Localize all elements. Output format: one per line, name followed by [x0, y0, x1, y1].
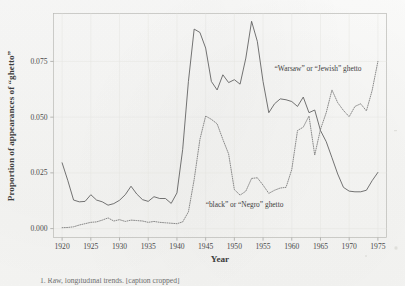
x-tick-label: 1920: [55, 242, 70, 251]
annotation-black-negro: “black” or “Negro” ghetto: [206, 200, 284, 209]
scan-smudge: [394, 246, 397, 249]
ghetto-proportion-line-chart: 1920192519301935194019451950195519601965…: [0, 0, 405, 286]
y-tick-label: 0.025: [30, 168, 47, 177]
x-tick-label: 1950: [227, 242, 242, 251]
scan-smudge: [394, 130, 397, 131]
series-warsaw-jewish-line: [62, 21, 378, 205]
y-axis-ticks: 0.0000.0250.0500.075: [30, 57, 53, 233]
x-tick-label: 1935: [141, 242, 156, 251]
cropped-caption: 1. Raw, longitudinal trends. [caption cr…: [40, 276, 180, 285]
y-tick-label: 0.050: [30, 113, 47, 122]
data-series-group: [62, 21, 378, 227]
x-tick-label: 1955: [255, 242, 270, 251]
x-tick-label: 1960: [284, 242, 299, 251]
y-axis-label: Proportion of appearances of “ghetto”: [6, 50, 16, 201]
x-tick-label: 1940: [169, 242, 184, 251]
caption-text: 1. Raw, longitudinal trends. [caption cr…: [40, 276, 180, 285]
y-tick-label: 0.075: [30, 57, 47, 66]
annotation-warsaw-jewish: “Warsaw” or “Jewish” ghetto: [275, 64, 362, 73]
y-tick-label: 0.000: [30, 224, 47, 233]
x-tick-label: 1970: [342, 242, 357, 251]
x-tick-label: 1965: [313, 242, 328, 251]
x-tick-label: 1945: [198, 242, 213, 251]
x-tick-label: 1930: [112, 242, 127, 251]
x-tick-label: 1925: [83, 242, 98, 251]
scan-smudge: [365, 255, 367, 257]
x-axis-label: Year: [211, 254, 229, 264]
x-axis-ticks: 1920192519301935194019451950195519601965…: [55, 238, 386, 252]
figure-page: 1920192519301935194019451950195519601965…: [0, 0, 405, 286]
x-tick-label: 1975: [370, 242, 385, 251]
